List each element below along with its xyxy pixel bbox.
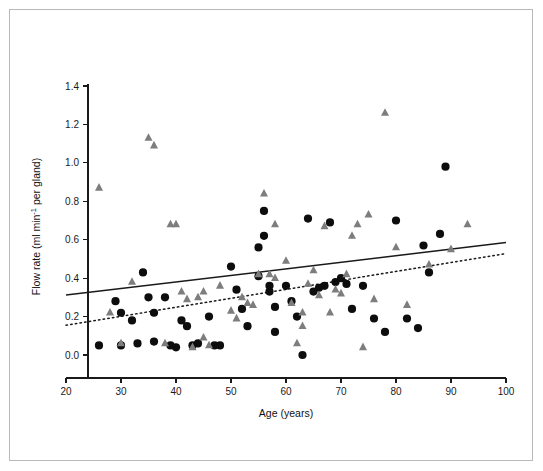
data-point-circle [144, 293, 152, 301]
x-tick-label: 80 [390, 386, 402, 397]
x-axis-label: Age (years) [259, 407, 313, 419]
data-point-circle [205, 312, 213, 320]
data-point-triangle [227, 306, 235, 314]
data-point-circle [133, 339, 141, 347]
data-point-circle [425, 268, 433, 276]
data-point-circle [370, 314, 378, 322]
data-point-triangle [200, 333, 208, 341]
data-point-triangle [145, 133, 153, 141]
x-tick-label: 60 [280, 386, 292, 397]
data-point-triangle [299, 308, 307, 316]
data-point-circle [381, 328, 389, 336]
data-point-circle [128, 316, 136, 324]
data-point-circle [304, 214, 312, 222]
data-point-triangle [183, 295, 191, 303]
data-point-triangle [343, 270, 351, 278]
data-point-circle [150, 309, 158, 317]
data-point-circle [436, 230, 444, 238]
data-point-circle [320, 282, 328, 290]
y-tick-label: 0.2 [65, 311, 79, 322]
data-point-triangle [271, 220, 279, 228]
data-point-triangle [200, 287, 208, 295]
x-tick-label: 30 [115, 386, 127, 397]
data-point-circle [414, 324, 422, 332]
data-point-triangle [150, 141, 158, 149]
data-point-circle [419, 241, 427, 249]
data-point-triangle [354, 220, 362, 228]
axes: 0.00.20.40.60.81.01.21.42030405060708090… [60, 81, 514, 397]
data-point-circle [254, 243, 262, 251]
data-point-triangle [326, 308, 334, 316]
data-point-triangle [337, 289, 345, 297]
data-point-circle [111, 297, 119, 305]
y-tick-label: 1.2 [65, 119, 79, 130]
data-point-triangle [178, 287, 186, 295]
data-point-triangle [381, 108, 389, 116]
data-point-circle [359, 282, 367, 290]
data-point-circle [139, 268, 147, 276]
data-point-triangle [128, 277, 136, 285]
data-point-triangle [365, 210, 373, 218]
y-tick-label: 0.8 [65, 196, 79, 207]
data-point-triangle [299, 321, 307, 329]
data-point-triangle [216, 281, 224, 289]
y-axis-label-text: Flow rate (ml min-1 per gland) [29, 158, 42, 295]
data-point-circle [271, 328, 279, 336]
y-axis-label: Flow rate (ml min-1 per gland) [29, 158, 42, 295]
y-tick-label: 0.6 [65, 234, 79, 245]
x-tick-label: 40 [170, 386, 182, 397]
chart-root: 0.00.20.40.60.81.01.21.42030405060708090… [0, 0, 543, 471]
data-point-circle [216, 341, 224, 349]
data-point-triangle [95, 183, 103, 191]
data-point-circle [95, 341, 103, 349]
x-tick-label: 50 [225, 386, 237, 397]
data-point-triangle [464, 220, 472, 228]
data-point-circle [392, 216, 400, 224]
series-circles [95, 163, 450, 360]
data-point-circle [238, 305, 246, 313]
data-point-circle [232, 286, 240, 294]
x-tick-label: 70 [335, 386, 347, 397]
y-tick-label: 0.4 [65, 273, 79, 284]
data-point-triangle [392, 243, 400, 251]
scatter-plot: 0.00.20.40.60.81.01.21.42030405060708090… [0, 0, 543, 471]
data-point-triangle [293, 339, 301, 347]
data-point-circle [403, 314, 411, 322]
y-tick-label: 0.0 [65, 350, 79, 361]
data-point-circle [183, 322, 191, 330]
data-point-triangle [425, 260, 433, 268]
data-point-circle [150, 337, 158, 345]
data-point-triangle [172, 220, 180, 228]
data-point-triangle [106, 308, 114, 316]
y-tick-label: 1.4 [65, 81, 79, 92]
data-point-triangle [271, 273, 279, 281]
data-point-triangle [233, 314, 241, 322]
data-point-circle [227, 263, 235, 271]
data-point-triangle [403, 300, 411, 308]
data-point-circle [326, 218, 334, 226]
data-point-circle [342, 280, 350, 288]
data-points [95, 108, 472, 359]
data-point-circle [260, 207, 268, 215]
data-point-circle [348, 305, 356, 313]
data-point-triangle [332, 285, 340, 293]
data-point-triangle [359, 343, 367, 351]
x-tick-label: 100 [498, 386, 515, 397]
data-point-circle [260, 232, 268, 240]
data-point-triangle [260, 189, 268, 197]
y-tick-label: 1.0 [65, 157, 79, 168]
data-point-circle [161, 293, 169, 301]
data-point-circle [172, 343, 180, 351]
data-point-triangle [282, 256, 290, 264]
data-point-circle [194, 339, 202, 347]
x-tick-label: 90 [445, 386, 457, 397]
data-point-circle [271, 303, 279, 311]
data-point-circle [265, 287, 273, 295]
data-point-triangle [310, 266, 318, 274]
data-point-circle [441, 163, 449, 171]
data-point-triangle [304, 279, 312, 287]
data-point-circle [243, 322, 251, 330]
data-point-circle [117, 309, 125, 317]
data-point-circle [298, 351, 306, 359]
data-point-triangle [348, 231, 356, 239]
